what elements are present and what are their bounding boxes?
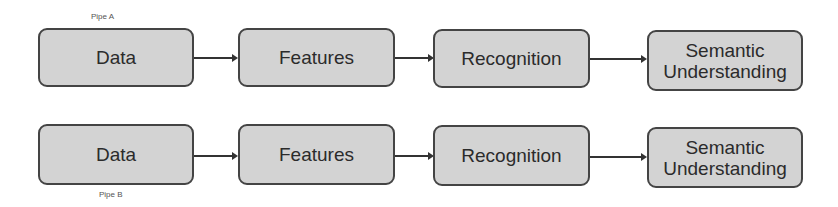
arrow-icon [395, 57, 432, 59]
pipe-b-stage-semantic-understanding: Semantic Understanding [647, 127, 803, 188]
pipe-b-stage-recognition: Recognition [433, 125, 590, 186]
pipe-b-label: Pipe B [99, 190, 123, 199]
pipe-b-stage-data: Data [38, 124, 194, 185]
pipe-a-stage-features: Features [238, 28, 395, 87]
pipe-b-stage-features: Features [238, 124, 395, 185]
stage-label: Recognition [461, 145, 561, 166]
arrow-icon [590, 156, 645, 158]
stage-label: Data [96, 144, 136, 165]
stage-label: Features [279, 144, 354, 165]
stage-label: Semantic Understanding [649, 137, 801, 179]
arrow-icon [590, 58, 645, 60]
pipe-a-label: Pipe A [91, 12, 114, 21]
stage-label: Recognition [461, 48, 561, 69]
stage-label: Semantic Understanding [649, 40, 801, 82]
arrow-icon [194, 155, 236, 157]
arrow-icon [395, 155, 432, 157]
pipe-a-stage-recognition: Recognition [433, 29, 590, 88]
arrow-icon [194, 57, 236, 59]
stage-label: Data [96, 47, 136, 68]
pipe-a-stage-data: Data [38, 28, 194, 87]
stage-label: Features [279, 47, 354, 68]
pipe-a-stage-semantic-understanding: Semantic Understanding [647, 30, 803, 91]
